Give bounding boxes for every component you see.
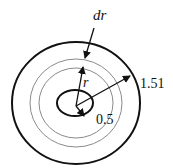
outer-radius-label: 1.51 [140, 76, 165, 91]
r-arrow [76, 67, 83, 106]
inner-radius-arrow [76, 106, 84, 116]
annulus-diagram: dr r 1.51 0.5 [0, 0, 173, 168]
inner-circle [57, 90, 93, 116]
inner-radius-label: 0.5 [96, 112, 114, 127]
r-label: r [83, 75, 89, 90]
dr-label: dr [93, 7, 107, 23]
